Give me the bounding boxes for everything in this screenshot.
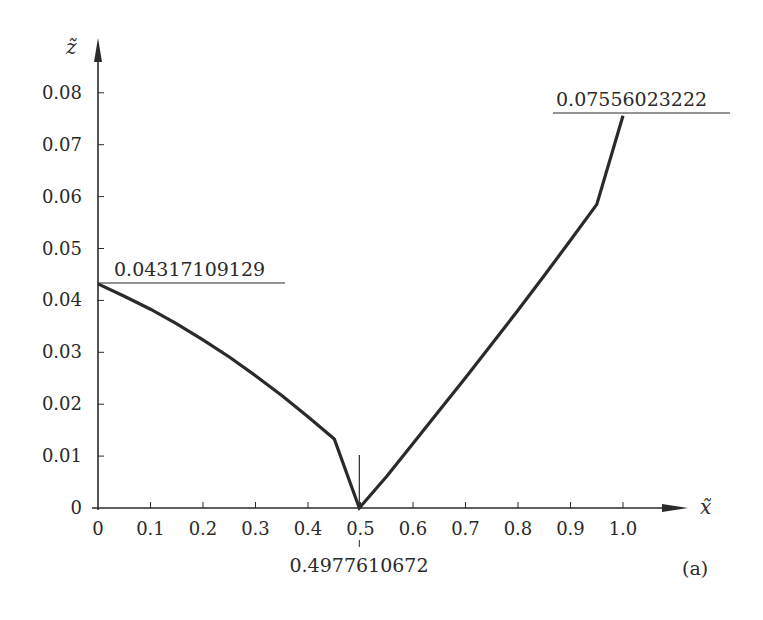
y-tick-label: 0.03 — [42, 341, 82, 362]
x-tick-label: 0.7 — [451, 518, 480, 539]
y-axis: z̃ — [65, 35, 102, 510]
x-tick-label: 1.0 — [609, 518, 638, 539]
y-tick-label: 0.04 — [42, 289, 82, 310]
x-tick-label: 0 — [92, 518, 103, 539]
y-tick-label: 0.08 — [42, 82, 82, 103]
y-tick-label: 0.01 — [42, 445, 82, 466]
y-ticks: 00.010.020.030.040.050.060.070.08 — [42, 82, 104, 518]
y-tick-label: 0 — [71, 497, 82, 518]
x-axis-title: x̃ — [700, 495, 712, 519]
x-tick-label: 0.4 — [294, 518, 323, 539]
x-tick-label: 0.3 — [241, 518, 270, 539]
x-tick-label: 0.1 — [136, 518, 165, 539]
x-axis-arrow-icon — [662, 504, 688, 512]
y-axis-title: z̃ — [65, 35, 77, 59]
minimum-location-label: 0.4977610672 — [289, 554, 428, 576]
y-tick-label: 0.06 — [42, 186, 82, 207]
x-tick-label: 0.9 — [556, 518, 585, 539]
x-axis: x̃ — [92, 495, 712, 519]
y-axis-arrow-icon — [94, 38, 102, 62]
y-tick-label: 0.02 — [42, 393, 82, 414]
x-tick-label: 0.6 — [399, 518, 428, 539]
right-value-label: 0.07556023222 — [556, 88, 707, 110]
x-tick-label: 0.5 — [346, 518, 375, 539]
data-curve — [98, 116, 623, 508]
y-tick-label: 0.05 — [42, 238, 82, 259]
panel-label: (a) — [682, 557, 708, 579]
chart: z̃ 00.010.020.030.040.050.060.070.08 x̃ … — [0, 0, 763, 620]
x-tick-label: 0.2 — [189, 518, 218, 539]
left-value-label: 0.04317109129 — [114, 258, 265, 280]
y-tick-label: 0.07 — [42, 134, 82, 155]
x-tick-label: 0.8 — [504, 518, 533, 539]
